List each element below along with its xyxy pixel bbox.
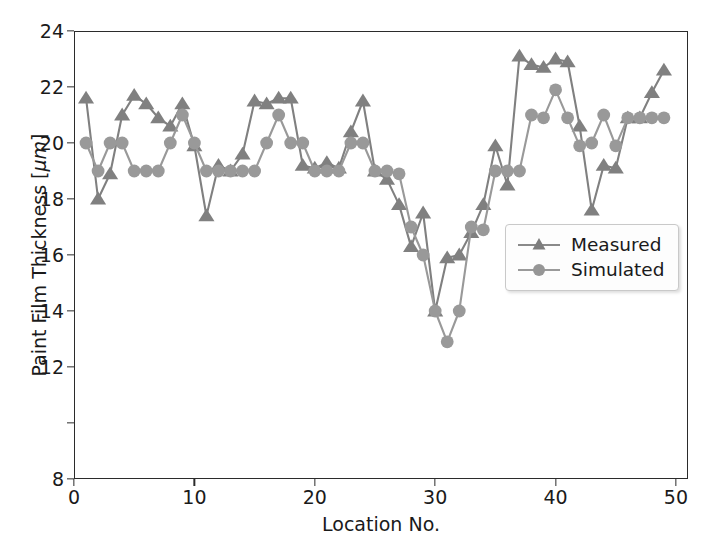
data-point-marker [645, 111, 658, 124]
data-point-marker [597, 109, 610, 122]
x-tick-mark [314, 479, 315, 486]
data-point-marker [415, 206, 431, 219]
data-point-marker [357, 137, 370, 150]
data-point-marker [236, 165, 249, 178]
data-point-marker [198, 208, 214, 221]
data-point-marker [501, 165, 514, 178]
data-point-marker [80, 137, 93, 150]
legend-marker-circle-icon [516, 259, 562, 281]
data-point-marker [152, 165, 165, 178]
chart-figure: 812141618202224 01020304050 Paint Film T… [0, 0, 703, 552]
data-point-marker [513, 165, 526, 178]
y-axis-label: Paint Film Thickness [μm] [26, 31, 52, 479]
data-point-marker [584, 203, 600, 216]
data-point-marker [212, 165, 225, 178]
x-tick-label: 50 [664, 486, 688, 508]
y-tick-mark [67, 422, 74, 423]
data-point-marker [174, 96, 190, 109]
x-tick-label: 30 [423, 486, 447, 508]
x-tick-mark [73, 479, 74, 486]
x-tick-label: 20 [303, 486, 327, 508]
data-point-marker [477, 223, 490, 236]
x-tick-mark [675, 479, 676, 486]
data-point-marker [295, 158, 311, 171]
y-axis-label-unit: μm [28, 141, 50, 172]
data-point-marker [92, 165, 105, 178]
data-point-marker [320, 165, 333, 178]
x-axis-label: Location No. [74, 513, 688, 535]
legend-label-measured: Measured [571, 234, 661, 255]
data-point-marker [548, 52, 564, 65]
y-axis-label-suffix: ] [28, 133, 50, 140]
y-tick-mark [67, 254, 74, 255]
y-tick-mark [67, 30, 74, 31]
data-point-marker [656, 63, 672, 76]
data-point-marker [572, 119, 588, 132]
data-point-marker [78, 91, 94, 104]
x-tick-mark [435, 479, 436, 486]
x-tick-mark [555, 479, 556, 486]
data-point-marker [405, 221, 418, 234]
data-point-marker [260, 137, 273, 150]
legend-item-simulated: Simulated [516, 257, 665, 282]
data-point-marker [116, 137, 129, 150]
data-point-marker [537, 111, 550, 124]
data-point-marker [381, 165, 394, 178]
y-tick-mark [67, 198, 74, 199]
data-point-marker [104, 137, 117, 150]
data-point-marker [621, 111, 634, 124]
y-tick-mark [67, 366, 74, 367]
legend-item-measured: Measured [516, 232, 665, 257]
x-tick-label: 10 [182, 486, 206, 508]
legend-marker-triangle-icon [516, 234, 562, 256]
legend-label-simulated: Simulated [571, 259, 665, 280]
data-point-marker [188, 137, 201, 150]
y-tick-mark [67, 142, 74, 143]
data-point-marker [633, 111, 646, 124]
data-point-marker [308, 165, 321, 178]
data-point-marker [176, 109, 189, 122]
data-point-marker [487, 138, 503, 151]
data-point-marker [596, 158, 612, 171]
x-tick-label: 0 [68, 486, 80, 508]
data-point-marker [511, 49, 527, 62]
data-point-marker [489, 165, 502, 178]
data-point-marker [369, 165, 382, 178]
data-point-marker [429, 305, 442, 318]
data-point-marker [549, 83, 562, 96]
data-point-marker [247, 94, 263, 107]
data-point-marker [453, 305, 466, 318]
data-point-marker [644, 85, 660, 98]
data-point-marker [224, 165, 237, 178]
y-tick-mark [67, 310, 74, 311]
data-point-marker [465, 221, 478, 234]
data-point-marker [561, 111, 574, 124]
data-point-marker [102, 166, 118, 179]
data-point-marker [525, 109, 538, 122]
data-point-marker [272, 109, 285, 122]
data-point-marker [140, 165, 153, 178]
data-point-marker [248, 165, 261, 178]
data-point-marker [332, 165, 345, 178]
y-tick-label: 8 [52, 468, 64, 490]
data-point-marker [90, 192, 106, 205]
data-point-marker [609, 139, 622, 152]
chart-legend: Measured Simulated [505, 224, 679, 291]
data-point-marker [128, 165, 141, 178]
data-point-marker [355, 94, 371, 107]
data-point-marker [441, 335, 454, 348]
data-point-marker [585, 137, 598, 150]
data-point-marker [200, 165, 213, 178]
x-tick-mark [194, 479, 195, 486]
data-point-marker [393, 167, 406, 180]
data-point-marker [126, 88, 142, 101]
data-point-marker [417, 249, 430, 262]
data-point-marker [284, 137, 297, 150]
data-point-marker [658, 111, 671, 124]
data-point-marker [296, 137, 309, 150]
x-tick-label: 40 [543, 486, 567, 508]
data-point-marker [114, 108, 130, 121]
data-point-marker [164, 137, 177, 150]
y-axis-label-text: Paint Film Thickness [ [28, 171, 50, 376]
data-point-marker [234, 147, 250, 160]
